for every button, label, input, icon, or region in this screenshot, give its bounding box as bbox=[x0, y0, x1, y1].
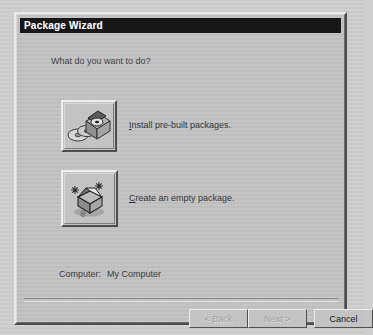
back-button[interactable]: < Back bbox=[189, 309, 248, 328]
computer-row: Computer:My Computer bbox=[59, 269, 161, 279]
footer-separator bbox=[24, 298, 338, 302]
empty-package-icon bbox=[66, 177, 113, 221]
create-label-rest: reate an empty package. bbox=[136, 193, 235, 203]
dialog-client-area: Package Wizard What do you want to do? bbox=[16, 14, 345, 323]
computer-value: My Computer bbox=[107, 269, 161, 279]
footer-button-bar: < Back Next > Cancel bbox=[17, 309, 350, 331]
window-title: Package Wizard bbox=[24, 20, 103, 31]
prebuilt-packages-icon bbox=[66, 105, 112, 147]
install-prebuilt-label: Install pre-built packages. bbox=[129, 120, 231, 130]
package-wizard-dialog: Package Wizard What do you want to do? bbox=[14, 12, 347, 325]
install-label-rest: nstall pre-built packages. bbox=[132, 120, 232, 130]
cancel-button[interactable]: Cancel bbox=[314, 309, 373, 328]
create-empty-button[interactable] bbox=[61, 170, 118, 227]
computer-label: Computer: bbox=[59, 269, 107, 279]
next-button[interactable]: Next > bbox=[248, 309, 307, 328]
prompt-text: What do you want to do? bbox=[51, 56, 151, 66]
install-prebuilt-button[interactable] bbox=[61, 100, 117, 152]
create-empty-label: Create an empty package. bbox=[129, 193, 235, 203]
title-bar[interactable]: Package Wizard bbox=[20, 18, 341, 33]
